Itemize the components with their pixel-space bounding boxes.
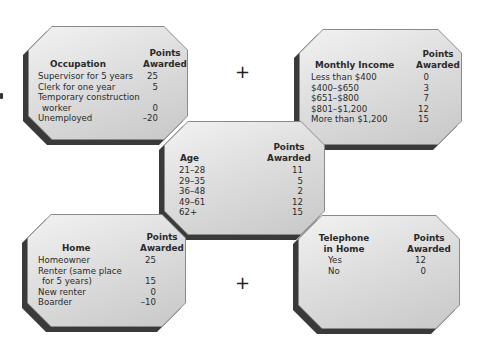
income-row: $400–$650 (311, 83, 359, 94)
occupation-points: 5 (153, 82, 158, 93)
age-row: 29–35 (179, 176, 205, 187)
home-points: 25 (145, 255, 156, 266)
home-row: Homeowner (38, 255, 90, 266)
occupation-points: 0 (153, 103, 158, 114)
plus-sign: + (235, 274, 250, 292)
occupation-points: 25 (147, 71, 158, 82)
telephone-panel: Telephone in Home Points Awarded Yes 12 … (298, 215, 460, 329)
income-points: 12 (418, 104, 429, 115)
occupation-title: Occupation (50, 59, 106, 70)
home-row: Boarder (38, 297, 72, 308)
monthly-income-title: Monthly Income (315, 60, 394, 71)
plus-sign: + (235, 63, 250, 81)
edge-mark (0, 93, 3, 99)
income-row: $651–$800 (311, 93, 359, 104)
telephone-points: 0 (421, 266, 426, 277)
occupation-row: Unemployed (38, 113, 92, 124)
home-points: 0 (151, 287, 156, 298)
income-points: 0 (424, 72, 429, 83)
home-row: New renter (38, 287, 86, 298)
income-points: 3 (424, 83, 429, 94)
occupation-row-cont: worker (42, 103, 71, 114)
age-title: Age (180, 153, 199, 164)
home-points: –10 (141, 297, 156, 308)
age-points: 11 (292, 165, 303, 176)
telephone-points: 12 (415, 255, 426, 266)
income-points: 7 (424, 93, 429, 104)
occupation-row: Temporary construction (38, 92, 140, 103)
age-points: 2 (298, 186, 303, 197)
income-row: $801–$1,200 (311, 104, 367, 115)
home-points: 15 (145, 276, 156, 287)
telephone-row: Yes (328, 255, 342, 266)
home-title: Home (62, 243, 91, 254)
points-header: Points Awarded (404, 233, 454, 254)
income-row: Less than $400 (311, 72, 377, 83)
home-row-cont: for 5 years) (42, 276, 92, 287)
occupation-row: Clerk for one year (38, 82, 115, 93)
telephone-row: No (328, 266, 340, 277)
income-points: 15 (418, 114, 429, 125)
age-points: 12 (292, 197, 303, 208)
home-panel: Points Awarded Home Homeowner 25 Renter … (27, 214, 186, 327)
points-header: Points Awarded (140, 48, 190, 69)
occupation-row: Supervisor for 5 years (38, 71, 133, 82)
age-points: 5 (298, 176, 303, 187)
age-row: 49–61 (179, 197, 205, 208)
occupation-points: –20 (143, 113, 158, 124)
points-header: Points Awarded (264, 142, 314, 163)
points-header: Points Awarded (413, 49, 463, 70)
age-row: 21–28 (179, 165, 205, 176)
home-row: Renter (same place (38, 266, 122, 277)
age-row: 36–48 (179, 186, 205, 197)
points-header: Points Awarded (137, 232, 187, 253)
telephone-title: Telephone in Home (312, 233, 376, 254)
